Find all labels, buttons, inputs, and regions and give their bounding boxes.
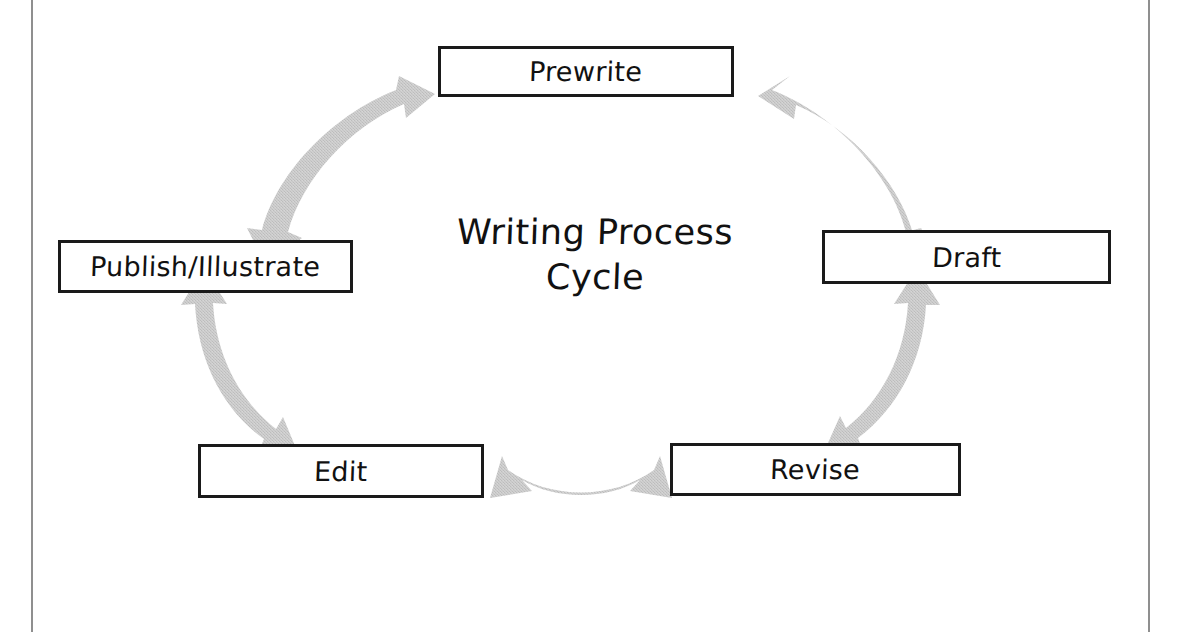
node-revise-label: Revise [770, 456, 861, 483]
node-publish-illustrate[interactable]: Publish/Illustrate [58, 240, 353, 293]
connector-publish-prewrite [247, 76, 435, 266]
node-publish-illustrate-label: Publish/Illustrate [90, 253, 321, 280]
diagram-center-title: Writing Process Cycle [420, 210, 770, 300]
node-prewrite[interactable]: Prewrite [438, 46, 734, 97]
node-draft-label: Draft [931, 244, 1002, 271]
node-revise[interactable]: Revise [670, 443, 961, 496]
node-draft[interactable]: Draft [822, 230, 1111, 284]
center-title-line-1: Writing Process [419, 210, 771, 255]
node-edit[interactable]: Edit [198, 444, 484, 498]
page-canvas: Prewrite Draft Revise Edit Publish/Illus… [0, 0, 1183, 632]
node-edit-label: Edit [314, 458, 368, 485]
connector-draft-revise [824, 268, 940, 452]
connector-revise-edit [490, 456, 672, 498]
writing-process-cycle-diagram: Prewrite Draft Revise Edit Publish/Illus… [0, 0, 1183, 632]
node-prewrite-label: Prewrite [529, 58, 643, 85]
connector-edit-publish [181, 268, 298, 453]
center-title-line-2: Cycle [419, 255, 771, 300]
